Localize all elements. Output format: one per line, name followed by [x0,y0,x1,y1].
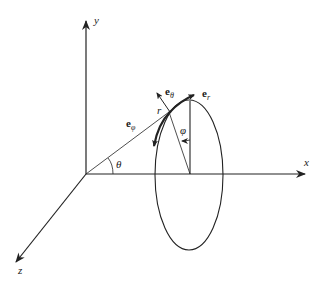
circle-path [155,100,223,250]
spherical-coordinates-diagram: y x z φ r θ eφ er eθ [0,0,321,287]
point-p [169,111,172,114]
z-axis [16,174,86,262]
circle-radius-to-point [169,112,190,174]
theta-angle-arc [108,158,113,174]
z-axis-label: z [17,264,23,276]
e-theta-label: eθ [165,85,174,100]
radius-label: r [157,104,162,116]
phi-angle-arc [182,140,190,141]
e-r-label: er [202,87,211,102]
x-axis-label: x [303,156,309,168]
y-axis-label: y [93,14,99,26]
e-phi-label: eφ [126,117,136,132]
phi-label: φ [180,124,186,136]
theta-label: θ [116,158,122,170]
